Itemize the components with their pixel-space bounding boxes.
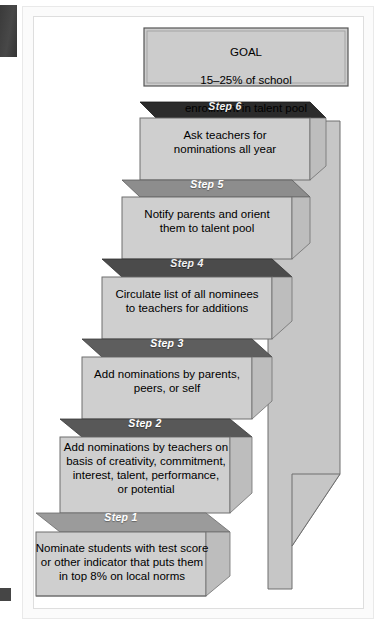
step-3-riser bbox=[82, 357, 252, 419]
step-6-tread bbox=[140, 102, 326, 118]
binding-mark-bottom-icon bbox=[0, 588, 11, 601]
step-1-side bbox=[206, 532, 230, 596]
staircase-diagram bbox=[22, 6, 374, 619]
step-2-tread bbox=[60, 419, 252, 437]
step-2-riser bbox=[60, 437, 230, 513]
staircase-bottom-bevel bbox=[292, 474, 340, 546]
step-5-tread bbox=[122, 180, 310, 197]
goal-box bbox=[144, 28, 348, 86]
step-2-side bbox=[230, 437, 252, 513]
step-1-tread bbox=[36, 513, 230, 532]
step-4-tread bbox=[102, 259, 292, 277]
step-6-riser bbox=[140, 118, 310, 180]
step-3-tread bbox=[82, 339, 272, 357]
figure-root: GOAL 15–25% of school enrollment in tale… bbox=[0, 0, 384, 637]
step-4-riser bbox=[102, 277, 272, 339]
step-5-riser bbox=[122, 197, 292, 259]
binding-mark-top-icon bbox=[0, 5, 17, 57]
step-1-riser bbox=[36, 532, 206, 596]
